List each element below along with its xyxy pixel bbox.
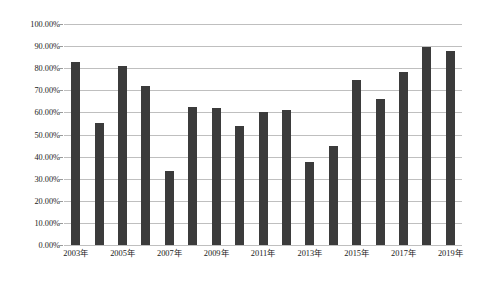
bar[interactable] <box>399 72 408 245</box>
x-axis-tick-label: 2017年 <box>391 248 416 259</box>
bar[interactable] <box>165 171 174 245</box>
bar[interactable] <box>422 47 431 245</box>
y-axis-tick-label: 100.00% <box>2 20 60 29</box>
y-axis-tick-label: 60.00% <box>2 108 60 117</box>
y-axis-tick-mark <box>59 245 63 246</box>
bar-chart: 0.00%10.00%20.00%30.00%40.00%50.00%60.00… <box>0 0 478 286</box>
bar[interactable] <box>118 66 127 245</box>
x-axis-tick-label: 2011年 <box>251 248 275 259</box>
bar[interactable] <box>329 146 338 245</box>
bar[interactable] <box>282 110 291 245</box>
y-axis-tick-mark <box>59 24 63 25</box>
x-axis-tick-label: 2013年 <box>297 248 322 259</box>
y-axis-tick-mark <box>59 112 63 113</box>
bar[interactable] <box>305 162 314 245</box>
x-axis-tick-label: 2003年 <box>63 248 88 259</box>
y-axis-tick-label: 90.00% <box>2 42 60 51</box>
y-axis-tick-mark <box>59 157 63 158</box>
y-axis-tick-mark <box>59 223 63 224</box>
y-axis-labels: 0.00%10.00%20.00%30.00%40.00%50.00%60.00… <box>0 24 60 245</box>
bar[interactable] <box>235 126 244 245</box>
x-axis-labels: 2003年2005年2007年2009年2011年2013年2015年2017年… <box>64 248 462 268</box>
y-axis-tick-label: 20.00% <box>2 196 60 205</box>
bars-layer <box>64 24 462 245</box>
x-axis-tick-label: 2007年 <box>157 248 182 259</box>
x-axis-tick-label: 2019年 <box>438 248 463 259</box>
y-axis-tick-label: 40.00% <box>2 152 60 161</box>
bar[interactable] <box>141 86 150 245</box>
bar[interactable] <box>212 108 221 245</box>
bar[interactable] <box>259 112 268 245</box>
bar[interactable] <box>95 123 104 245</box>
y-axis-tick-mark <box>59 135 63 136</box>
bar[interactable] <box>376 99 385 245</box>
y-axis-tick-label: 30.00% <box>2 174 60 183</box>
y-axis-tick-mark <box>59 68 63 69</box>
x-axis-tick-label: 2015年 <box>344 248 369 259</box>
y-axis-tick-mark <box>59 46 63 47</box>
bar[interactable] <box>71 62 80 245</box>
y-axis-tick-label: 0.00% <box>2 241 60 250</box>
gridline <box>64 245 462 246</box>
y-axis-tick-mark <box>59 179 63 180</box>
bar[interactable] <box>352 80 361 245</box>
y-axis-tick-mark <box>59 90 63 91</box>
bar[interactable] <box>446 51 455 245</box>
y-axis-tick-label: 50.00% <box>2 130 60 139</box>
x-axis-tick-label: 2009年 <box>204 248 229 259</box>
bar[interactable] <box>188 107 197 245</box>
x-axis-tick-label: 2005年 <box>110 248 135 259</box>
y-axis-tick-label: 80.00% <box>2 64 60 73</box>
y-axis-tick-label: 70.00% <box>2 86 60 95</box>
y-axis-tick-label: 10.00% <box>2 218 60 227</box>
y-axis-tick-mark <box>59 201 63 202</box>
